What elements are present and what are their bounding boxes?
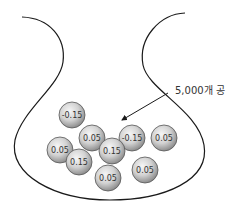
ball: 0.05 xyxy=(151,125,177,151)
ball: 0.05 xyxy=(132,157,158,183)
ball: 0.05 xyxy=(95,165,121,191)
ball-value: -0.15 xyxy=(122,134,143,143)
ball-value: 0.05 xyxy=(51,146,69,155)
ball: -0.15 xyxy=(59,102,85,128)
urn-label: 5,000개 공 xyxy=(175,85,225,96)
ball-value: 0.05 xyxy=(136,166,154,175)
urn-diagram: 5,000개 공 -0.15 0.05 0.05 0.05 -0.15 0.15… xyxy=(0,0,230,215)
ball-value: 0.05 xyxy=(83,134,101,143)
ball-value: 0.15 xyxy=(103,147,121,156)
pointer-arrow xyxy=(122,93,168,120)
ball-value: 0.05 xyxy=(155,134,173,143)
ball: 0.15 xyxy=(66,149,92,175)
ball-value: -0.15 xyxy=(62,111,83,120)
ball-value: 0.15 xyxy=(70,158,88,167)
ball: 0.15 xyxy=(99,138,125,164)
ball-value: 0.05 xyxy=(99,174,117,183)
